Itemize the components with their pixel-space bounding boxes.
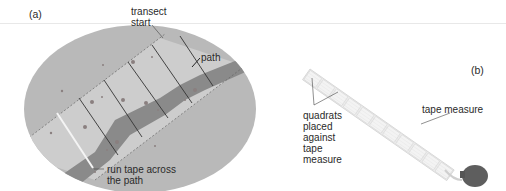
quadrats-label-line2: placed	[303, 121, 332, 132]
quadrats-label-line1: quadrats	[303, 110, 342, 121]
tape-measure-label: tape measure	[422, 104, 483, 115]
panel-a-label: (a)	[29, 9, 42, 20]
run-tape-label-line1: run tape across	[107, 164, 176, 175]
diagram-canvas	[0, 0, 506, 191]
transect-start-label-line1: transect	[131, 6, 167, 17]
quadrats-label-line4: tape	[303, 143, 322, 154]
quadrats-label-line5: measure	[303, 154, 342, 165]
quadrats-label-line3: against	[303, 132, 335, 143]
tape-reel	[460, 165, 488, 187]
run-tape-label-line2: the path	[107, 175, 143, 186]
path-label: path	[201, 52, 220, 63]
transect-start-label-line2: start	[131, 17, 150, 28]
panel-b-label: (b)	[471, 65, 484, 76]
